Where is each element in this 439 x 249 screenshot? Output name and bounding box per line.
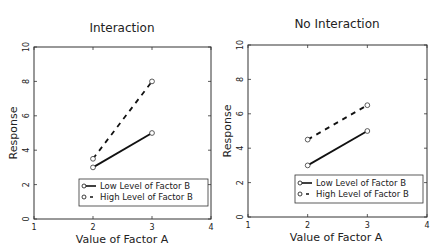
y-tick-label: 6 <box>22 113 31 118</box>
x-tick-label: 1 <box>245 221 250 230</box>
low-level-series-line <box>93 133 152 167</box>
x-tick-label: 2 <box>90 223 95 232</box>
data-point-marker <box>91 156 96 161</box>
x-axis-label: Value of Factor A <box>290 231 383 244</box>
x-tick-label: 2 <box>305 221 310 230</box>
y-tick-label: 4 <box>236 146 245 151</box>
chart-panel-interaction: Interaction 0246810 1234 Response Value … <box>7 21 214 246</box>
y-tick-label: 8 <box>22 79 31 84</box>
legend-label-high: High Level of Factor B <box>100 192 193 202</box>
legend-circle-marker-icon <box>82 195 86 199</box>
data-point-marker <box>305 163 310 168</box>
low-level-series-line <box>308 131 368 165</box>
legend-label-low: Low Level of Factor B <box>316 178 406 188</box>
y-tick-label: 0 <box>236 214 245 219</box>
legend-label-high: High Level of Factor B <box>316 189 409 199</box>
high-level-series-line <box>308 105 368 139</box>
y-tick-label: 10 <box>22 42 31 52</box>
legend: Low Level of Factor B High Level of Fact… <box>295 175 423 203</box>
legend-circle-marker-icon <box>82 184 86 188</box>
chart-title: No Interaction <box>294 17 379 31</box>
high-level-series-line <box>93 81 152 158</box>
y-tick-label: 6 <box>236 111 245 116</box>
data-point-marker <box>150 131 155 136</box>
legend-circle-marker-icon <box>298 181 302 185</box>
figure: Interaction 0246810 1234 Response Value … <box>0 0 439 249</box>
x-axis-label: Value of Factor A <box>76 233 169 246</box>
x-tick-label: 1 <box>31 223 36 232</box>
y-tick-label: 10 <box>236 40 245 50</box>
data-point-marker <box>305 137 310 142</box>
x-tick-label: 4 <box>208 223 213 232</box>
y-tick-label: 0 <box>22 216 31 221</box>
x-tick-label: 4 <box>424 221 429 230</box>
data-point-marker <box>365 129 370 134</box>
legend-label-low: Low Level of Factor B <box>100 181 190 191</box>
x-tick-label: 3 <box>149 223 154 232</box>
data-series <box>305 103 369 168</box>
legend-circle-marker-icon <box>298 192 302 196</box>
data-point-marker <box>365 103 370 108</box>
legend: Low Level of Factor B High Level of Fact… <box>79 179 208 206</box>
data-point-marker <box>150 79 155 84</box>
data-point-marker <box>91 165 96 170</box>
y-tick-label: 8 <box>236 77 245 82</box>
data-series <box>91 79 155 170</box>
x-tick-label: 3 <box>365 221 370 230</box>
y-tick-label: 2 <box>236 180 245 185</box>
y-tick-label: 2 <box>22 182 31 187</box>
chart-panel-no-interaction: No Interaction 0246810 1234 Response Val… <box>221 17 430 244</box>
chart-title: Interaction <box>89 21 154 35</box>
y-axis-label: Response <box>221 104 234 157</box>
y-axis-label: Response <box>7 106 20 159</box>
y-tick-label: 4 <box>22 148 31 153</box>
